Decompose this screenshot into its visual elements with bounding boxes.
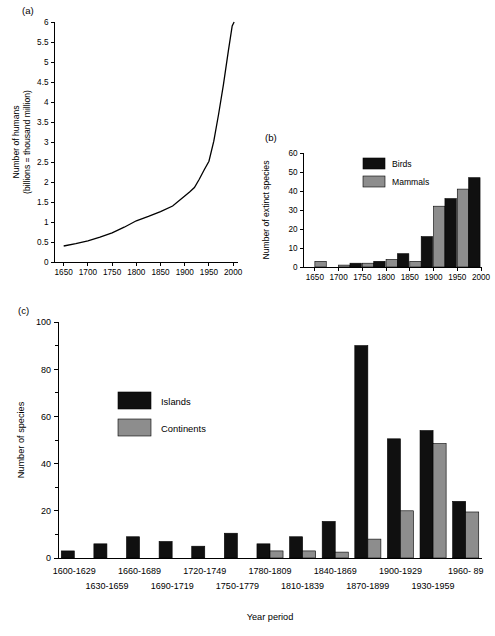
x-tick-label: 1660-1689 <box>118 566 161 576</box>
bar-islands <box>257 544 270 558</box>
x-tick-label: 1950 <box>448 273 467 282</box>
bar-birds <box>397 254 408 267</box>
bar-continents <box>335 552 348 558</box>
x-axis-title: Year period <box>247 612 294 622</box>
bar-islands <box>387 439 400 558</box>
bar-islands <box>192 546 205 558</box>
panel-a-population-chart: (a)00.511.522.533.544.555.56165017001750… <box>0 0 250 300</box>
bar-islands <box>94 544 107 558</box>
y-axis-title-second-line: (billions = thousand million) <box>22 90 32 194</box>
bar-birds <box>350 263 361 267</box>
y-tick-label: 6 <box>44 18 49 27</box>
bar-islands <box>159 541 172 558</box>
x-tick-label: 1600-1629 <box>53 566 96 576</box>
legend-label-birds: Birds <box>392 159 412 169</box>
panel-c-label: (c) <box>18 305 29 316</box>
bar-mammals <box>457 189 468 267</box>
x-tick-label: 2000 <box>224 268 243 277</box>
x-tick-label: 1700 <box>329 273 348 282</box>
y-tick-label: 2.5 <box>37 158 49 167</box>
bar-mammals <box>315 261 326 267</box>
x-tick-label: 1850 <box>151 268 170 277</box>
y-tick-label: 0 <box>44 258 49 267</box>
bar-birds <box>469 178 480 267</box>
y-tick-label: 60 <box>288 149 298 158</box>
x-tick-label: 1750 <box>103 268 122 277</box>
legend-swatch-birds <box>363 158 385 169</box>
x-tick-label: 1900 <box>424 273 443 282</box>
panel-c-islands-continents-chart: (c)020406080100Number of species1600-162… <box>0 300 495 636</box>
bar-islands <box>224 533 237 558</box>
panel-b-extinct-species-chart: (b)0102030405060165017001750180018501900… <box>245 125 495 305</box>
y-tick-label: 4 <box>44 98 49 107</box>
x-tick-label: 1750-1779 <box>216 581 259 591</box>
extinct-species-bar-chart: (b)0102030405060165017001750180018501900… <box>245 125 495 305</box>
x-tick-label: 1720-1749 <box>183 566 226 576</box>
y-tick-label: 100 <box>36 317 51 327</box>
y-tick-label: 1.5 <box>37 198 49 207</box>
bar-islands <box>420 431 433 558</box>
x-tick-label: 1800 <box>377 273 396 282</box>
panel-b-label: (b) <box>265 132 277 143</box>
x-tick-label: 1900 <box>176 268 195 277</box>
y-tick-label: 20 <box>288 225 298 234</box>
bar-continents <box>433 444 446 558</box>
x-tick-label: 1810-1839 <box>281 581 324 591</box>
x-tick-label: 1750 <box>353 273 372 282</box>
legend-label-islands: Islands <box>161 396 191 407</box>
y-tick-label: 30 <box>288 206 298 215</box>
y-tick-label: 5 <box>44 58 49 67</box>
y-tick-label: 60 <box>41 412 51 422</box>
bar-mammals <box>362 263 373 267</box>
bar-mammals <box>386 259 397 267</box>
y-axis-title: Number of humans <box>11 105 21 178</box>
population-line-chart: (a)00.511.522.533.544.555.56165017001750… <box>0 0 250 300</box>
y-tick-label: 40 <box>41 459 51 469</box>
bar-islands <box>290 537 303 558</box>
x-tick-label: 1840-1869 <box>314 566 357 576</box>
x-tick-label: 2000 <box>472 273 491 282</box>
legend-swatch-mammals <box>363 176 385 187</box>
x-tick-label: 1780-1809 <box>248 566 291 576</box>
bar-continents <box>270 551 283 558</box>
y-tick-label: 3 <box>44 138 49 147</box>
y-tick-label: 5.5 <box>37 38 49 47</box>
y-tick-label: 50 <box>288 168 298 177</box>
legend-label-mammals: Mammals <box>392 177 429 187</box>
bar-islands <box>126 537 139 558</box>
x-tick-label: 1700 <box>79 268 98 277</box>
x-tick-label: 1930-1959 <box>412 581 455 591</box>
x-tick-label: 1960- 89 <box>448 566 484 576</box>
bar-birds <box>421 237 432 267</box>
y-axis-title: Number of extinct species <box>261 161 271 260</box>
bar-islands <box>453 501 466 558</box>
figure-container: (a)00.511.522.533.544.555.56165017001750… <box>0 0 495 636</box>
x-tick-label: 1900-1929 <box>379 566 422 576</box>
y-axis-title: Number of species <box>16 401 26 478</box>
y-tick-label: 3.5 <box>37 118 49 127</box>
x-tick-label: 1650 <box>306 273 325 282</box>
x-tick-label: 1950 <box>200 268 219 277</box>
y-tick-label: 80 <box>41 365 51 375</box>
population-curve <box>64 22 234 246</box>
panel-a-label: (a) <box>22 5 34 16</box>
bar-islands <box>355 346 368 558</box>
y-tick-label: 2 <box>44 178 49 187</box>
y-tick-label: 0.5 <box>37 238 49 247</box>
legend-label-continents: Continents <box>161 423 206 434</box>
bar-islands <box>322 521 335 558</box>
bar-continents <box>303 551 316 558</box>
y-tick-label: 4.5 <box>37 78 49 87</box>
bar-mammals <box>410 261 421 267</box>
y-tick-label: 10 <box>288 244 298 253</box>
bar-birds <box>374 261 385 267</box>
bar-continents <box>400 511 413 558</box>
x-tick-label: 1800 <box>127 268 146 277</box>
bar-mammals <box>339 265 350 267</box>
x-tick-label: 1870-1899 <box>346 581 389 591</box>
legend-swatch-continents <box>118 419 151 436</box>
bar-continents <box>368 539 381 558</box>
bar-mammals <box>434 206 445 267</box>
x-tick-label: 1650 <box>55 268 74 277</box>
y-tick-label: 0 <box>293 263 298 272</box>
